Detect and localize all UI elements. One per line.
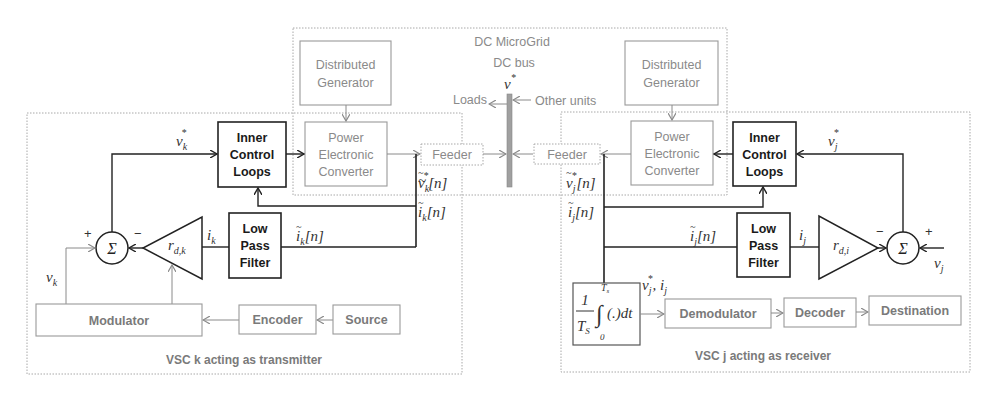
diagram-canvas: DC MicroGrid DC bus v* Loads Other units… — [0, 0, 997, 397]
microgrid-title: DC MicroGrid — [474, 35, 550, 49]
tilde-mark: ~ — [690, 221, 696, 232]
svg-text:Loops: Loops — [233, 165, 271, 179]
tilde-mark: ~ — [568, 197, 574, 208]
right-destination: Destination — [869, 296, 961, 325]
svg-text:Low: Low — [243, 222, 268, 236]
left-plus-sign: + — [84, 226, 92, 241]
svg-text:Σ: Σ — [106, 240, 117, 257]
right-i-label: ij — [799, 227, 806, 246]
right-integrator-out-label: vj*, ij — [642, 273, 667, 296]
right-low-pass-filter: Low Pass Filter — [737, 213, 790, 277]
svg-text:Encoder: Encoder — [252, 313, 302, 327]
svg-text:Destination: Destination — [881, 304, 949, 318]
svg-text:Σ: Σ — [897, 240, 908, 257]
svg-text:Feeder: Feeder — [432, 148, 472, 162]
svg-text:Generator: Generator — [643, 76, 699, 90]
right-minus-sign: − — [876, 224, 884, 239]
right-power-electronic-converter: Power Electronic Converter — [631, 121, 713, 185]
left-vref-label: vk* — [176, 127, 188, 152]
svg-text:Distributed: Distributed — [316, 58, 376, 72]
svg-text:Converter: Converter — [319, 165, 374, 179]
svg-text:1: 1 — [581, 292, 589, 308]
right-v-label: vj — [934, 255, 944, 274]
dc-bus-bar — [507, 94, 512, 187]
left-summing-junction: Σ — [96, 232, 128, 264]
right-vref-label: vj* — [828, 127, 838, 152]
right-demodulator: Demodulator — [665, 299, 771, 328]
tilde-mark: ~ — [566, 167, 572, 178]
svg-text:Filter: Filter — [748, 256, 779, 270]
left-feedback-to-icl — [258, 188, 416, 206]
tilde-mark: ~ — [418, 167, 424, 178]
left-v-label: vk — [46, 269, 58, 288]
left-feeder: Feeder — [421, 144, 483, 165]
svg-text:Pass: Pass — [749, 239, 778, 253]
left-distributed-generator: Distributed Generator — [300, 41, 391, 105]
svg-text:Source: Source — [345, 313, 387, 327]
svg-text:(.)dt: (.)dt — [607, 305, 633, 322]
svg-text:Generator: Generator — [317, 76, 373, 90]
svg-text:Electronic: Electronic — [319, 148, 374, 162]
svg-text:Decoder: Decoder — [795, 306, 845, 320]
svg-text:Electronic: Electronic — [645, 147, 700, 161]
left-minus-sign: − — [134, 226, 142, 241]
right-plus-sign: + — [925, 224, 933, 239]
left-encoder: Encoder — [239, 305, 316, 334]
left-i-label: ik — [207, 227, 216, 246]
svg-text:∫: ∫ — [594, 301, 604, 329]
loads-label: Loads — [453, 93, 487, 107]
other-units-label: Other units — [535, 94, 596, 108]
svg-text:Distributed: Distributed — [642, 58, 702, 72]
tilde-mark: ~ — [296, 221, 302, 232]
svg-text:Inner: Inner — [237, 131, 268, 145]
right-decoder: Decoder — [784, 298, 856, 327]
left-low-pass-filter: Low Pass Filter — [229, 213, 281, 278]
right-summing-junction: Σ — [887, 232, 919, 264]
svg-text:Control: Control — [742, 148, 786, 162]
right-caption: VSC j acting as receiver — [695, 349, 831, 363]
left-power-electronic-converter: Power Electronic Converter — [305, 122, 387, 186]
right-vref-line — [797, 154, 903, 232]
left-caption: VSC k acting as transmitter — [166, 353, 322, 367]
svg-text:Filter: Filter — [240, 256, 271, 270]
right-droop-gain: rd,i — [819, 216, 878, 279]
svg-text:Loops: Loops — [746, 165, 784, 179]
left-source: Source — [333, 305, 400, 334]
svg-text:Low: Low — [751, 222, 776, 236]
bus-voltage: v* — [504, 72, 516, 92]
svg-text:Power: Power — [328, 131, 363, 145]
left-inner-control-loops: Inner Control Loops — [218, 122, 286, 187]
svg-text:Power: Power — [654, 130, 689, 144]
svg-text:0: 0 — [600, 332, 605, 342]
right-inner-control-loops: Inner Control Loops — [733, 122, 796, 186]
left-modulator: Modulator — [36, 304, 202, 336]
svg-text:Inner: Inner — [749, 131, 780, 145]
right-feedback-to-icl — [604, 187, 763, 207]
svg-text:Modulator: Modulator — [89, 314, 150, 328]
svg-text:Feeder: Feeder — [547, 148, 587, 162]
svg-text:Pass: Pass — [240, 239, 269, 253]
svg-text:Converter: Converter — [645, 164, 700, 178]
right-distributed-generator: Distributed Generator — [625, 41, 718, 105]
svg-text:Demodulator: Demodulator — [679, 307, 756, 321]
bus-label: DC bus — [493, 56, 535, 70]
left-modulator-to-sum-arrow — [66, 248, 95, 304]
right-feeder: Feeder — [534, 144, 600, 164]
tilde-mark: ~ — [418, 197, 424, 208]
svg-text:Control: Control — [230, 148, 274, 162]
right-integrator: 1 TS ∫ Ts 0 (.)dt — [573, 282, 640, 345]
